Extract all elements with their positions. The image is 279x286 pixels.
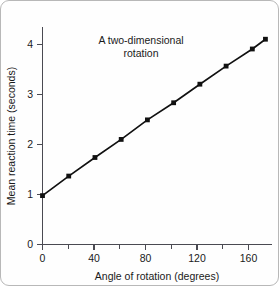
line-chart: 0 1 2 3 4 0 40 80 120 160 Angle of xyxy=(1,1,279,286)
y-tick-label-3: 3 xyxy=(27,88,33,100)
data-point xyxy=(119,137,124,142)
y-tick-label-0: 0 xyxy=(27,238,33,250)
y-tick-label-2: 2 xyxy=(27,138,33,150)
data-point xyxy=(224,64,229,69)
data-point xyxy=(145,117,150,122)
data-point xyxy=(197,82,202,87)
y-ticks-group xyxy=(37,45,43,245)
x-tick-label-80: 80 xyxy=(140,252,152,264)
series-group xyxy=(40,37,268,198)
data-point xyxy=(171,100,176,105)
x-tick-label-40: 40 xyxy=(88,252,100,264)
y-tick-label-1: 1 xyxy=(27,188,33,200)
data-point xyxy=(66,174,71,179)
x-tick-label-160: 160 xyxy=(240,252,258,264)
y-tick-labels-group: 0 1 2 3 4 xyxy=(27,38,33,250)
data-point xyxy=(40,193,45,198)
x-axis-title: Angle of rotation (degrees) xyxy=(95,270,219,282)
y-axis-title: Mean reaction time (seconds) xyxy=(5,67,17,205)
data-point xyxy=(263,37,268,42)
data-point xyxy=(93,155,98,160)
x-tick-label-0: 0 xyxy=(40,252,46,264)
data-point xyxy=(250,47,255,52)
figure-frame: 0 1 2 3 4 0 40 80 120 160 Angle of xyxy=(0,0,279,286)
x-ticks-group xyxy=(43,245,249,251)
x-tick-label-120: 120 xyxy=(188,252,206,264)
x-tick-labels-group: 0 40 80 120 160 xyxy=(40,252,258,264)
annotation-line-2: rotation xyxy=(123,47,158,59)
series-line-mean-reaction-time xyxy=(43,39,266,195)
annotation-line-1: A two-dimensional xyxy=(98,34,183,46)
plot-annotation: A two-dimensional rotation xyxy=(98,34,183,59)
y-tick-label-4: 4 xyxy=(27,38,33,50)
